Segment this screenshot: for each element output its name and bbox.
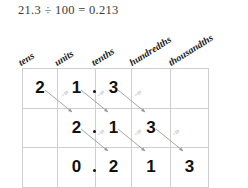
digit-value: 1 — [132, 148, 170, 186]
column-header-tens: tens — [16, 50, 36, 68]
cell-row-original-number-tenths: 3 — [96, 69, 132, 109]
digit-value: 2 — [58, 109, 95, 147]
column-header-hundredths: hundredths — [127, 34, 173, 68]
equation-expression: 21.3 ÷ 100 = 0.213 — [18, 3, 119, 18]
digit-value: 2 — [23, 69, 57, 107]
digit-value: 1 — [58, 69, 95, 107]
cell-row-divided-by-ten-hundredths: 3 — [132, 108, 171, 148]
cell-row-divided-by-hundred-thousandths: 3 — [171, 148, 209, 188]
decimal-point-marker — [93, 130, 96, 133]
cell-row-original-number-units: 1 — [58, 69, 96, 109]
digit-value: 3 — [132, 109, 170, 147]
place-value-grid-container: 2132130213 — [22, 68, 203, 184]
row-divided-by-ten: 213 — [23, 108, 209, 148]
digit-value: 1 — [96, 109, 131, 147]
cell-row-divided-by-ten-tenths: 1 — [96, 108, 132, 148]
cell-row-divided-by-ten-tens — [23, 108, 58, 148]
cell-row-divided-by-ten-units: 2 — [58, 108, 96, 148]
cell-row-divided-by-hundred-tenths: 2 — [96, 148, 132, 188]
digit-value: 0 — [58, 148, 95, 186]
place-value-table: 2132130213 — [22, 68, 209, 188]
cell-row-original-number-tens: 2 — [23, 69, 58, 109]
cell-row-divided-by-hundred-units: 0 — [58, 148, 96, 188]
row-original-number: 213 — [23, 69, 209, 109]
column-headers: tensunitstenthshundredthsthousandths — [0, 20, 248, 68]
cell-row-original-number-hundredths — [132, 69, 171, 109]
cell-row-divided-by-ten-thousandths — [171, 108, 209, 148]
column-header-tenths: tenths — [89, 45, 116, 68]
column-header-units: units — [52, 48, 75, 68]
row-divided-by-hundred: 0213 — [23, 148, 209, 188]
digit-value: 2 — [96, 148, 131, 186]
cell-row-divided-by-hundred-tens — [23, 148, 58, 188]
cell-row-divided-by-hundred-hundredths: 1 — [132, 148, 171, 188]
cell-row-original-number-thousandths — [171, 69, 209, 109]
column-header-thousandths: thousandths — [166, 32, 215, 68]
digit-value: 3 — [171, 148, 208, 186]
digit-value: 3 — [96, 69, 131, 107]
